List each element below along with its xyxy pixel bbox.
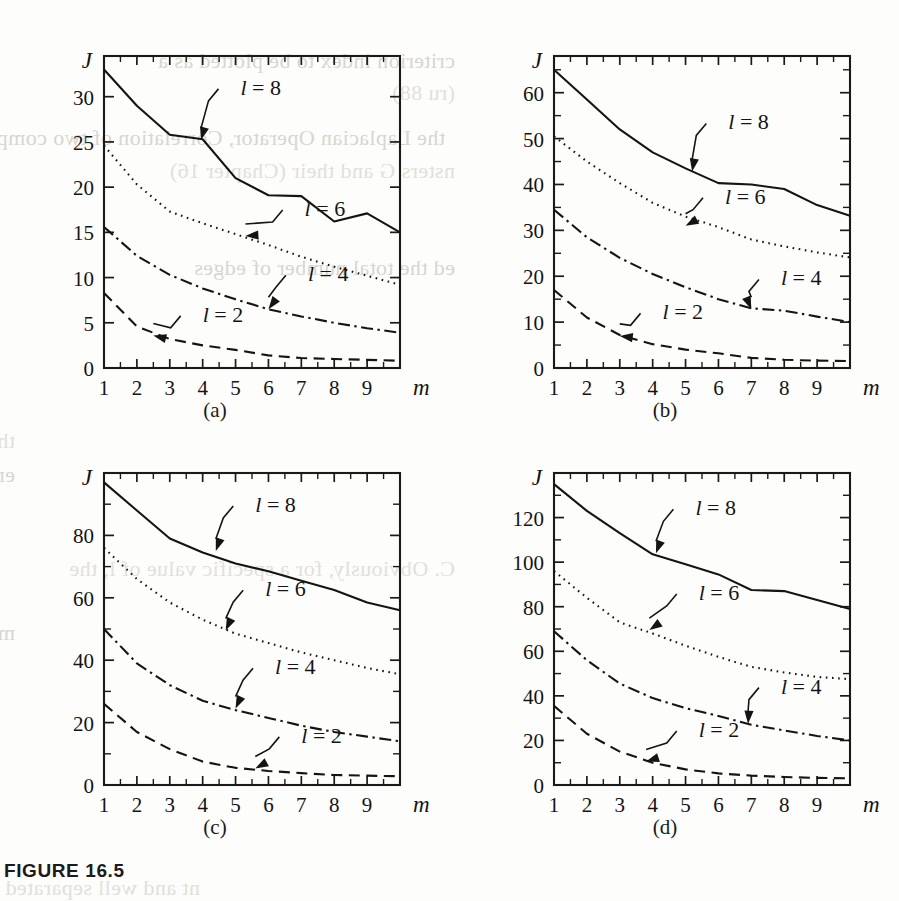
annotation-arrowhead-l6: [245, 230, 258, 239]
y-tick-label: 60: [523, 640, 544, 664]
annotation-arrowhead-l8: [216, 537, 225, 551]
annotation-leader-l6: [226, 590, 243, 618]
annotation-leader-l4: [236, 668, 253, 696]
annotation-leader-l8: [201, 89, 218, 128]
annotation-arrowhead-l2: [620, 333, 634, 342]
x-tick-label: 1: [99, 376, 110, 400]
y-axis-name: J: [82, 48, 94, 73]
series-curve-l6: [104, 146, 400, 285]
series-label-l6: l = 6: [305, 196, 346, 221]
annotation-leader-l2: [255, 737, 279, 757]
annotation-arrowhead-l2: [255, 758, 269, 768]
series-label-l4: l = 4: [275, 654, 316, 679]
x-tick-label: 9: [362, 793, 373, 817]
x-tick-label: 2: [582, 793, 593, 817]
annotation-arrowhead-l6: [649, 619, 662, 630]
x-tick-label: 6: [263, 376, 274, 400]
x-tick-label: 3: [615, 376, 626, 400]
series-curve-l2: [104, 704, 400, 776]
x-tick-label: 3: [165, 793, 176, 817]
x-tick-label: 4: [647, 376, 658, 400]
annotation-arrowhead-l2: [153, 334, 167, 343]
annotation-leader-l8: [692, 123, 706, 159]
x-tick-label: 8: [779, 376, 790, 400]
y-tick-label: 60: [73, 587, 94, 611]
plot-frame: [554, 56, 850, 368]
annotation-arrowhead-l6: [226, 617, 236, 631]
x-tick-label: 8: [329, 376, 340, 400]
series-curve-l4: [554, 210, 850, 322]
y-tick-label: 10: [73, 267, 94, 291]
x-axis-name: m: [863, 375, 880, 400]
annotation-leader-l2: [646, 731, 677, 750]
x-tick-label: 7: [296, 376, 307, 400]
x-tick-label: 2: [582, 376, 593, 400]
annotation-leader-l4: [268, 275, 285, 297]
y-axis-name: J: [532, 465, 544, 490]
x-axis-name: m: [413, 375, 430, 400]
panel-label-d: (d): [635, 815, 695, 840]
y-tick-label: 100: [513, 551, 545, 575]
x-tick-label: 9: [812, 793, 823, 817]
series-label-l8: l = 8: [695, 495, 736, 520]
annotation-arrowhead-l4: [268, 296, 279, 309]
y-tick-label: 120: [513, 507, 545, 531]
series-label-l8: l = 8: [255, 492, 296, 517]
annotation-leader-l6: [686, 198, 703, 214]
chart-svg-d: 123456789020406080100120Jml = 8l = 6l = …: [0, 0, 899, 845]
series-curve-l4: [554, 631, 850, 740]
x-tick-label: 4: [197, 793, 208, 817]
chart-svg-b: 1234567890102030405060Jml = 8l = 6l = 4l…: [0, 0, 899, 845]
plot-frame: [554, 473, 850, 785]
y-tick-label: 0: [84, 357, 95, 381]
x-tick-label: 1: [549, 376, 560, 400]
x-tick-label: 7: [746, 793, 757, 817]
figure-caption: FIGURE 16.5: [4, 860, 125, 882]
series-curve-l4: [104, 629, 400, 741]
x-tick-label: 2: [132, 793, 143, 817]
x-tick-label: 6: [713, 793, 724, 817]
annotation-arrowhead-l4: [236, 695, 246, 709]
y-axis-name: J: [532, 48, 544, 73]
x-axis-name: m: [863, 792, 880, 817]
x-tick-label: 9: [812, 376, 823, 400]
y-tick-label: 20: [523, 729, 544, 753]
y-tick-label: 30: [73, 86, 94, 110]
annotation-leader-l6: [649, 594, 676, 618]
annotation-arrowhead-l6: [686, 216, 700, 226]
series-label-l2: l = 2: [301, 723, 342, 748]
x-tick-label: 9: [362, 376, 373, 400]
x-tick-label: 5: [230, 793, 241, 817]
y-tick-label: 15: [73, 221, 94, 245]
series-label-l4: l = 4: [781, 265, 822, 290]
annotation-leader-l4: [748, 688, 759, 712]
x-tick-label: 2: [132, 376, 143, 400]
x-tick-label: 4: [197, 376, 208, 400]
x-tick-label: 6: [713, 376, 724, 400]
series-label-l2: l = 2: [663, 299, 704, 324]
series-label-l2: l = 2: [699, 717, 740, 742]
x-tick-label: 1: [549, 793, 560, 817]
y-tick-label: 30: [523, 219, 544, 243]
annotation-arrowhead-l8: [690, 158, 699, 172]
x-tick-label: 8: [779, 793, 790, 817]
series-curve-l2: [554, 706, 850, 778]
y-tick-label: 40: [73, 649, 94, 673]
annotation-leader-l4: [749, 279, 759, 297]
series-label-l4: l = 4: [308, 261, 349, 286]
y-tick-label: 20: [73, 176, 94, 200]
x-tick-label: 4: [647, 793, 658, 817]
series-curve-l6: [554, 571, 850, 679]
y-tick-label: 20: [523, 265, 544, 289]
annotation-leader-l2: [620, 313, 641, 325]
annotation-leader-l2: [153, 316, 180, 328]
y-tick-label: 10: [523, 311, 544, 335]
y-tick-label: 25: [73, 131, 94, 155]
annotation-leader-l6: [245, 210, 282, 224]
series-curve-l8: [104, 482, 400, 610]
annotation-arrowhead-l8: [656, 539, 665, 553]
x-tick-label: 5: [680, 376, 691, 400]
x-tick-label: 3: [615, 793, 626, 817]
series-label-l2: l = 2: [203, 302, 244, 327]
annotation-arrowhead-l4: [744, 710, 753, 723]
